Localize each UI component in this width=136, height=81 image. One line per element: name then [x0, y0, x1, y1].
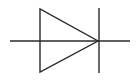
diode-symbol	[0, 0, 136, 81]
